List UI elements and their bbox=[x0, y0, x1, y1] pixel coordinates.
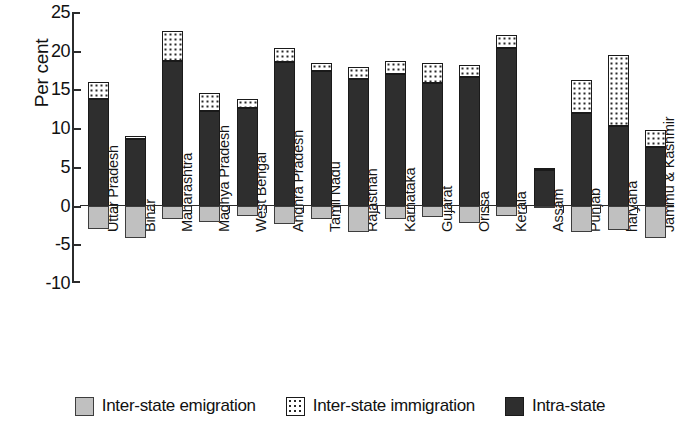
x-tick-mark bbox=[117, 205, 118, 213]
bar-segment-inter-state-emigration bbox=[199, 206, 220, 222]
bar-segment-inter-state-immigration bbox=[608, 55, 629, 126]
bar-segment-intra-state bbox=[534, 170, 555, 206]
bar-segment-inter-state-immigration bbox=[496, 35, 517, 48]
bar-group bbox=[274, 12, 295, 283]
x-tick-mark bbox=[340, 205, 341, 213]
x-tick-mark bbox=[414, 205, 415, 213]
y-tick-mark bbox=[72, 244, 81, 246]
bar-group bbox=[237, 12, 258, 283]
x-tick-mark bbox=[488, 205, 489, 213]
bar-segment-inter-state-emigration bbox=[162, 206, 183, 219]
bar-segment-inter-state-immigration bbox=[199, 93, 220, 112]
bar-segment-inter-state-emigration bbox=[237, 206, 258, 216]
bar-segment-intra-state bbox=[459, 77, 480, 206]
bar-group bbox=[348, 12, 369, 283]
bar-segment-inter-state-emigration bbox=[311, 206, 332, 219]
y-tick-label: 0 bbox=[60, 195, 70, 216]
legend-item: Inter-state immigration bbox=[286, 396, 475, 416]
x-tick-mark bbox=[191, 205, 192, 213]
bar-segment-inter-state-immigration bbox=[311, 63, 332, 71]
bar-segment-inter-state-emigration bbox=[571, 206, 592, 232]
y-tick-label: 10 bbox=[51, 118, 70, 139]
bar-segment-intra-state bbox=[385, 74, 406, 206]
y-tick-label: 15 bbox=[51, 79, 70, 100]
bar-segment-intra-state bbox=[88, 99, 109, 206]
bar-segment-inter-state-immigration bbox=[348, 67, 369, 79]
bar-segment-inter-state-emigration bbox=[125, 206, 146, 239]
y-tick-mark bbox=[72, 167, 81, 169]
bar-segment-inter-state-emigration bbox=[348, 206, 369, 232]
bar-segment-intra-state bbox=[645, 147, 666, 206]
bar-segment-inter-state-emigration bbox=[88, 206, 109, 229]
bar-segment-inter-state-immigration bbox=[422, 63, 443, 83]
bar-segment-intra-state bbox=[199, 111, 220, 205]
x-tick-mark bbox=[377, 205, 378, 213]
bar-group bbox=[422, 12, 443, 283]
bar-segment-inter-state-immigration bbox=[162, 31, 183, 61]
y-tick-mark bbox=[72, 89, 81, 91]
x-tick-mark bbox=[303, 205, 304, 213]
bar-group bbox=[125, 12, 146, 283]
bar-segment-intra-state bbox=[125, 139, 146, 206]
bar-segment-inter-state-immigration bbox=[645, 130, 666, 146]
bar-segment-intra-state bbox=[162, 61, 183, 206]
bar-segment-intra-state bbox=[237, 108, 258, 206]
dark-square-icon bbox=[505, 397, 524, 416]
bar-segment-inter-state-immigration bbox=[237, 99, 258, 108]
legend-label: Intra-state bbox=[532, 396, 605, 416]
legend-item: Intra-state bbox=[505, 396, 605, 416]
bar-segment-inter-state-immigration bbox=[571, 80, 592, 113]
dotted-square-icon bbox=[286, 397, 305, 416]
bar-segment-inter-state-emigration bbox=[645, 206, 666, 239]
bar-group bbox=[645, 12, 666, 283]
x-tick-mark bbox=[154, 205, 155, 213]
x-tick-mark bbox=[229, 205, 230, 213]
bar-segment-intra-state bbox=[496, 48, 517, 205]
bar-group bbox=[88, 12, 109, 283]
bar-group bbox=[571, 12, 592, 283]
y-tick-mark bbox=[72, 128, 81, 130]
x-tick-mark bbox=[600, 205, 601, 213]
zero-baseline bbox=[80, 205, 674, 206]
bar-segment-inter-state-emigration bbox=[422, 206, 443, 218]
bar-segment-intra-state bbox=[348, 79, 369, 206]
bar-segment-inter-state-emigration bbox=[459, 206, 480, 223]
bar-segment-inter-state-immigration bbox=[274, 48, 295, 61]
y-axis-tick-labels: 2520151050-5-10 bbox=[18, 0, 70, 300]
bar-segment-inter-state-immigration bbox=[88, 82, 109, 99]
bar-group bbox=[199, 12, 220, 283]
bar-group bbox=[608, 12, 629, 283]
light-gray-square-icon bbox=[75, 397, 94, 416]
x-tick-mark bbox=[266, 205, 267, 213]
legend-label: Inter-state emigration bbox=[102, 396, 256, 416]
x-tick-mark bbox=[526, 205, 527, 213]
bar-segment-inter-state-immigration bbox=[385, 61, 406, 74]
bar-group bbox=[385, 12, 406, 283]
bar-segment-inter-state-immigration bbox=[459, 65, 480, 77]
migration-bar-chart: Per cent 2520151050-5-10 Inter-state emi… bbox=[0, 0, 680, 427]
bar-segment-inter-state-immigration bbox=[534, 168, 555, 170]
bar-segment-inter-state-immigration bbox=[125, 136, 146, 139]
bar-group bbox=[311, 12, 332, 283]
legend-label: Inter-state immigration bbox=[313, 396, 475, 416]
bar-segment-inter-state-emigration bbox=[385, 206, 406, 220]
y-tick-label: 5 bbox=[60, 156, 70, 177]
y-tick-label: -10 bbox=[45, 273, 70, 294]
y-tick-mark bbox=[72, 51, 81, 53]
bar-segment-intra-state bbox=[571, 113, 592, 205]
bar-segment-inter-state-emigration bbox=[608, 206, 629, 231]
bar-group bbox=[162, 12, 183, 283]
chart-legend: Inter-state emigrationInter-state immigr… bbox=[0, 390, 680, 422]
x-tick-mark bbox=[563, 205, 564, 213]
bar-segment-intra-state bbox=[422, 83, 443, 205]
y-tick-label: 25 bbox=[51, 2, 70, 23]
plot-area bbox=[80, 12, 674, 283]
x-tick-mark bbox=[637, 205, 638, 213]
y-tick-label: -5 bbox=[55, 234, 70, 255]
bar-segment-intra-state bbox=[311, 71, 332, 206]
bar-group bbox=[534, 12, 555, 283]
bar-segment-intra-state bbox=[274, 62, 295, 206]
bar-segment-inter-state-emigration bbox=[496, 206, 517, 216]
y-tick-label: 20 bbox=[51, 40, 70, 61]
bar-group bbox=[496, 12, 517, 283]
